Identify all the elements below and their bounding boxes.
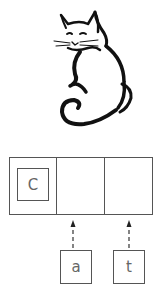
letter-a: a	[71, 258, 80, 276]
letter-tile-a: a	[60, 250, 92, 284]
letter-t: t	[126, 258, 132, 276]
letter-tile-t: t	[113, 250, 145, 284]
arrow-up-icon	[127, 220, 132, 227]
arrow-up-icon	[71, 220, 76, 227]
